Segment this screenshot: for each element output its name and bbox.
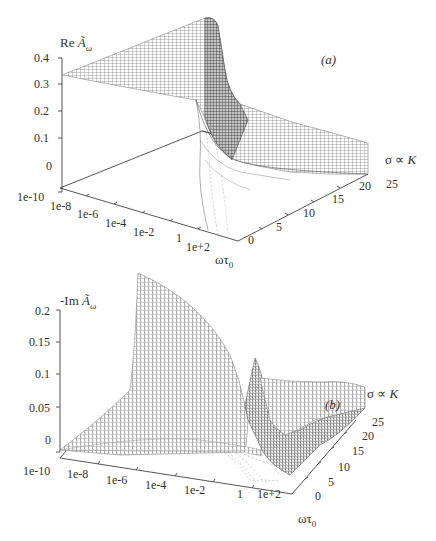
z-tick-b: 0.05	[29, 402, 50, 414]
x-tick-b: 1e-4	[145, 479, 166, 491]
z-axis-label-b: -Im Ãω	[60, 294, 96, 311]
z-tick-a: 0.4	[34, 52, 49, 64]
panel-tag-a: (a)	[321, 52, 336, 68]
y-tick-a: 20	[359, 180, 371, 192]
y-tick-a: 25	[386, 178, 398, 190]
y-tick-b: 25	[372, 416, 384, 428]
x-axis-label-a: ωτ0	[215, 253, 233, 270]
x-tick-a: 1	[176, 232, 182, 244]
x-tick-b: 1e+2	[257, 488, 281, 500]
x-tick-b: 1e-2	[184, 484, 205, 496]
y-axis-label-a: σ ∝ K	[385, 153, 416, 166]
x-tick-b: 1e-6	[106, 474, 127, 486]
x-tick-b: 1e-8	[67, 468, 88, 480]
panel-tag-b: (b)	[325, 397, 340, 413]
y-tick-b: 5	[328, 476, 334, 488]
y-tick-a: 15	[332, 193, 344, 205]
x-tick-a: 1e-8	[50, 200, 71, 212]
y-tick-a: 10	[303, 207, 315, 219]
y-tick-a: 5	[276, 221, 282, 233]
z-tick-a: 0.3	[34, 78, 49, 90]
y-tick-a: 0	[248, 234, 254, 246]
x-axis-label-b: ωτ0	[298, 512, 316, 529]
z-tick-a: 0.1	[34, 132, 49, 144]
z-axis-b	[56, 310, 60, 452]
x-tick-a: 1e+2	[186, 241, 210, 253]
y-tick-b: 20	[362, 430, 374, 442]
panel-a-re-part: Re Ãω (a) 0.4 0.3 0.2 0.1 0 1e-10 1e-8 1…	[0, 0, 436, 270]
panel-b-im-part: -Im Ãω (b) 0.2 0.15 0.1 0.05 0 1e-10 1e-…	[0, 270, 436, 541]
x-tick-a: 1e-10	[17, 191, 44, 203]
z-tick-b: 0	[45, 434, 51, 446]
surface-plot-b	[0, 270, 436, 541]
x-tick-a: 1e-6	[77, 208, 98, 220]
y-axis-label-b: σ ∝ K	[367, 387, 398, 400]
y-tick-b: 15	[352, 445, 364, 457]
surface-b	[60, 273, 365, 475]
z-tick-a: 0.2	[34, 105, 49, 117]
z-axis-a	[58, 58, 62, 192]
y-tick-b: 0	[315, 490, 321, 502]
x-tick-a: 1e-2	[133, 226, 154, 238]
z-tick-b: 0.2	[35, 305, 50, 317]
z-tick-b: 0.1	[35, 368, 50, 380]
x-tick-a: 1e-4	[105, 217, 126, 229]
z-tick-b: 0.15	[29, 336, 50, 348]
surface-a	[62, 18, 368, 236]
x-tick-b: 1e-10	[23, 465, 50, 477]
y-tick-b: 10	[338, 461, 350, 473]
z-tick-a: 0	[46, 160, 52, 172]
x-tick-b: 1	[237, 488, 243, 500]
z-axis-label-a: Re Ãω	[60, 36, 92, 53]
